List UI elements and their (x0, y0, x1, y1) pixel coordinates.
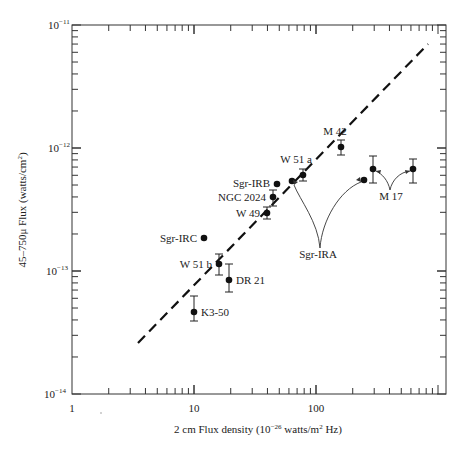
point-w51a (300, 172, 307, 179)
label-w49: W 49 (236, 207, 260, 219)
error-bars (190, 140, 417, 321)
point-k350 (191, 309, 198, 316)
svg-text:10−11: 10−11 (48, 18, 70, 31)
x-tick-label-1: 1 (69, 402, 75, 414)
label-sgrira: Sgr-IRA (299, 248, 337, 260)
x-axis-ticks (109, 25, 438, 394)
error-bar-k350 (190, 296, 198, 321)
arrow-sgrira-2 (320, 182, 361, 248)
point-m17-low (370, 166, 377, 173)
annotation-arrows (294, 171, 410, 248)
x-tick-label-10: 10 (189, 402, 201, 414)
print-speck (100, 412, 102, 414)
x-axis-title: 2 cm Flux density (10−26 watts/m2 Hz) (174, 423, 342, 436)
arrow-m17-1 (376, 171, 390, 190)
label-m17: M 17 (379, 190, 403, 202)
y-tick-label-1e-14: 10−14 (44, 387, 66, 400)
svg-text:10−13: 10−13 (46, 264, 68, 277)
svg-text:10−12: 10−12 (48, 141, 70, 154)
label-sgrirb: Sgr-IRB (233, 177, 270, 189)
label-w51b: W 51 b (180, 258, 213, 270)
label-ngc2024: NGC 2024 (218, 191, 266, 203)
point-w49 (264, 210, 271, 217)
point-m42 (338, 144, 345, 151)
label-w51a: W 51 a (280, 153, 312, 165)
point-w51b (216, 261, 223, 268)
x-tick-label-100: 100 (308, 402, 325, 414)
arrow-m17-2 (390, 171, 410, 190)
label-m42: M 42 (323, 125, 347, 137)
point-ngc2024 (270, 194, 277, 201)
label-dr21: DR 21 (236, 274, 265, 286)
point-dr21 (226, 277, 233, 284)
label-k350: K3-50 (201, 306, 230, 318)
y-tick-label-1e-12: 10−12 (48, 141, 70, 154)
label-sgrirc: Sgr-IRC (160, 232, 197, 244)
point-sgrirb (274, 181, 281, 188)
svg-text:10−14: 10−14 (44, 387, 66, 400)
arrow-sgrira-1 (294, 185, 320, 248)
y-tick-label-1e-11: 10−11 (48, 18, 70, 31)
point-m17-high (410, 166, 417, 173)
flux-scatter-chart: 1 10 100 10−11 10−12 10−13 10−14 2 cm Fl… (0, 0, 460, 451)
point-sgrirc (201, 235, 208, 242)
y-tick-label-1e-13: 10−13 (46, 264, 68, 277)
y-axis-title: 45–750μ Flux (watts/cm2) (16, 152, 29, 267)
point-sgrira-high (361, 177, 368, 184)
